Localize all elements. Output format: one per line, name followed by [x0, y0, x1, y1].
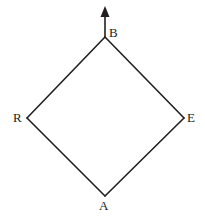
vertex-label-a: A — [99, 199, 108, 212]
vertex-label-e: E — [187, 111, 195, 124]
edge-B-R — [27, 37, 105, 118]
edge-E-A — [105, 118, 184, 196]
figure-canvas — [0, 0, 205, 219]
arrow-head — [101, 6, 110, 17]
edge-B-E — [105, 37, 184, 118]
vertex-label-b: B — [109, 26, 118, 39]
vertex-label-r: R — [13, 111, 22, 124]
edge-R-A — [27, 118, 105, 196]
geometry-figure: B R E A — [0, 0, 205, 219]
rhombus-edges — [27, 37, 184, 196]
